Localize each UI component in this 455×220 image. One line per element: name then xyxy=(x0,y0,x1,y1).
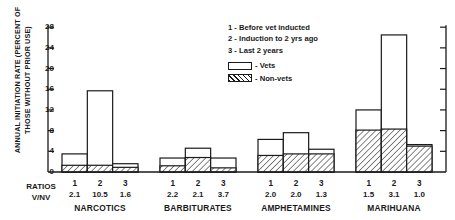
group-label-marihuana: MARIHUANA xyxy=(334,203,454,213)
legend-series-nonvets: - Non-vets xyxy=(228,73,318,84)
y-axis-label-line2: THOSE WITHOUT PRIOR USE) xyxy=(23,0,33,165)
bar-nonvets xyxy=(407,146,432,172)
bar-vets xyxy=(87,91,112,172)
ratio-value: 2.0 xyxy=(258,190,284,199)
ratio-value: 1.6 xyxy=(112,190,138,199)
legend-period-3: 3 - Last 2 years xyxy=(228,45,318,56)
ratio-value: 3.7 xyxy=(210,190,236,199)
x-tick-period-3: 3 xyxy=(117,179,133,188)
ratio-value: 1.0 xyxy=(406,190,432,199)
bar-nonvets xyxy=(185,158,210,172)
ratio-value: 2.1 xyxy=(62,190,88,199)
chart-legend: 1 - Before vet inducted 2 - Induction to… xyxy=(228,22,318,84)
x-tick-period-3: 3 xyxy=(411,179,427,188)
ratio-value: 2.1 xyxy=(185,190,211,199)
legend-series-nonvets-sep: - xyxy=(255,73,258,84)
legend-series-vets-sep: - xyxy=(255,60,258,71)
legend-period-2-sep: - xyxy=(234,34,237,43)
x-tick-period-3: 3 xyxy=(215,179,231,188)
x-tick-period-2: 2 xyxy=(190,179,206,188)
ratios-axis-label: RATIOS V/NV xyxy=(18,182,64,203)
legend-period-2-key: 2 xyxy=(228,34,232,43)
ratio-value: 2.0 xyxy=(283,190,309,199)
legend-period-2: 2 - Induction to 2 yrs ago xyxy=(228,33,318,44)
legend-period-2-label: Induction to 2 yrs ago xyxy=(239,34,318,43)
chart-figure: ANNUAL INITIATION RATE (PERCENT OF THOSE… xyxy=(0,0,455,220)
x-tick-period-1: 1 xyxy=(361,179,377,188)
legend-period-1-label: Before vet inducted xyxy=(239,23,310,32)
bar-nonvets xyxy=(160,166,185,172)
ratio-value: 2.2 xyxy=(160,190,186,199)
x-tick-period-2: 2 xyxy=(386,179,402,188)
ratio-value: 1.3 xyxy=(308,190,334,199)
bar-nonvets xyxy=(113,167,138,172)
bar-nonvets xyxy=(62,165,87,172)
legend-series-vets-label: Vets xyxy=(260,60,276,71)
x-tick-period-1: 1 xyxy=(263,179,279,188)
legend-period-3-key: 3 xyxy=(228,46,232,55)
bar-nonvets xyxy=(87,165,112,172)
x-tick-period-1: 1 xyxy=(165,179,181,188)
legend-swatch-hatched-icon xyxy=(228,74,252,82)
x-tick-period-3: 3 xyxy=(313,179,329,188)
ratio-value: 1.5 xyxy=(356,190,382,199)
ratios-axis-label-line2: V/NV xyxy=(18,193,64,204)
legend-period-3-label: Last 2 years xyxy=(239,46,283,55)
y-axis-label-line1: ANNUAL INITIATION RATE (PERCENT OF xyxy=(13,0,23,165)
bar-nonvets xyxy=(283,154,308,172)
x-tick-period-1: 1 xyxy=(67,179,83,188)
legend-series-vets: - Vets xyxy=(228,60,318,71)
legend-period-1: 1 - Before vet inducted xyxy=(228,22,318,33)
bar-nonvets xyxy=(258,155,283,172)
legend-period-1-key: 1 xyxy=(228,23,232,32)
legend-period-1-sep: - xyxy=(234,23,237,32)
y-axis-label: ANNUAL INITIATION RATE (PERCENT OF THOSE… xyxy=(13,0,33,165)
bar-nonvets xyxy=(381,129,406,172)
plot-area xyxy=(42,18,412,168)
bar-nonvets xyxy=(309,154,334,172)
legend-swatch-open-icon xyxy=(228,62,252,70)
ratio-value: 3.1 xyxy=(381,190,407,199)
x-tick-period-2: 2 xyxy=(92,179,108,188)
legend-period-3-sep: - xyxy=(234,46,237,55)
legend-series-nonvets-label: Non-vets xyxy=(260,73,293,84)
bar-nonvets xyxy=(356,130,381,172)
ratio-value: 10.5 xyxy=(87,190,113,199)
ratios-axis-label-line1: RATIOS xyxy=(18,182,64,193)
x-tick-period-2: 2 xyxy=(288,179,304,188)
